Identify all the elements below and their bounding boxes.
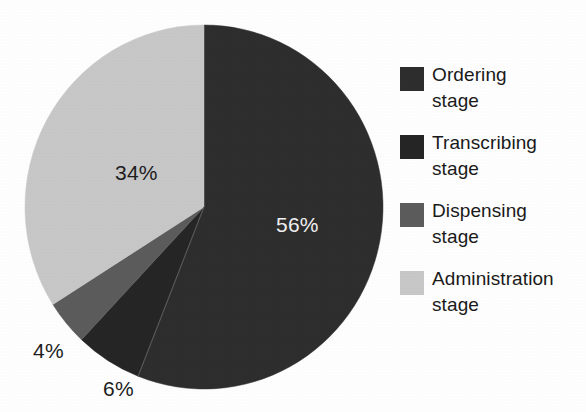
legend-label-administration: Administration stage (432, 266, 586, 318)
legend-label-ordering-line1: Ordering (432, 64, 507, 85)
legend-label-administration-line2: stage (432, 292, 586, 318)
legend-swatch-transcribing (400, 135, 424, 159)
legend-label-ordering-line2: stage (432, 88, 586, 114)
pie-chart-figure: 56% 34% 4% 6% Ordering stage Transcribin… (0, 0, 586, 412)
legend-item-administration: Administration stage (400, 266, 586, 318)
legend-swatch-administration (400, 271, 424, 295)
slice-value-label-dispensing: 4% (33, 340, 64, 361)
legend-label-ordering: Ordering stage (432, 62, 586, 114)
pie-chart-plot-area: 56% 34% 4% 6% (0, 0, 400, 412)
legend-label-transcribing-line2: stage (432, 156, 586, 182)
legend-label-dispensing-line1: Dispensing (432, 200, 527, 221)
legend-swatch-ordering (400, 67, 424, 91)
chart-legend: Ordering stage Transcribing stage Dispen… (400, 62, 586, 334)
slice-value-label-ordering: 56% (276, 214, 319, 235)
pie-slice-group (25, 25, 383, 389)
legend-item-dispensing: Dispensing stage (400, 198, 586, 250)
legend-label-transcribing: Transcribing stage (432, 130, 586, 182)
legend-label-transcribing-line1: Transcribing (432, 132, 537, 153)
legend-item-ordering: Ordering stage (400, 62, 586, 114)
slice-value-label-transcribing: 6% (103, 378, 134, 399)
legend-label-dispensing: Dispensing stage (432, 198, 586, 250)
legend-item-transcribing: Transcribing stage (400, 130, 586, 182)
slice-value-label-administration: 34% (115, 162, 158, 183)
legend-label-administration-line1: Administration (432, 268, 554, 289)
legend-label-dispensing-line2: stage (432, 224, 586, 250)
legend-swatch-dispensing (400, 203, 424, 227)
